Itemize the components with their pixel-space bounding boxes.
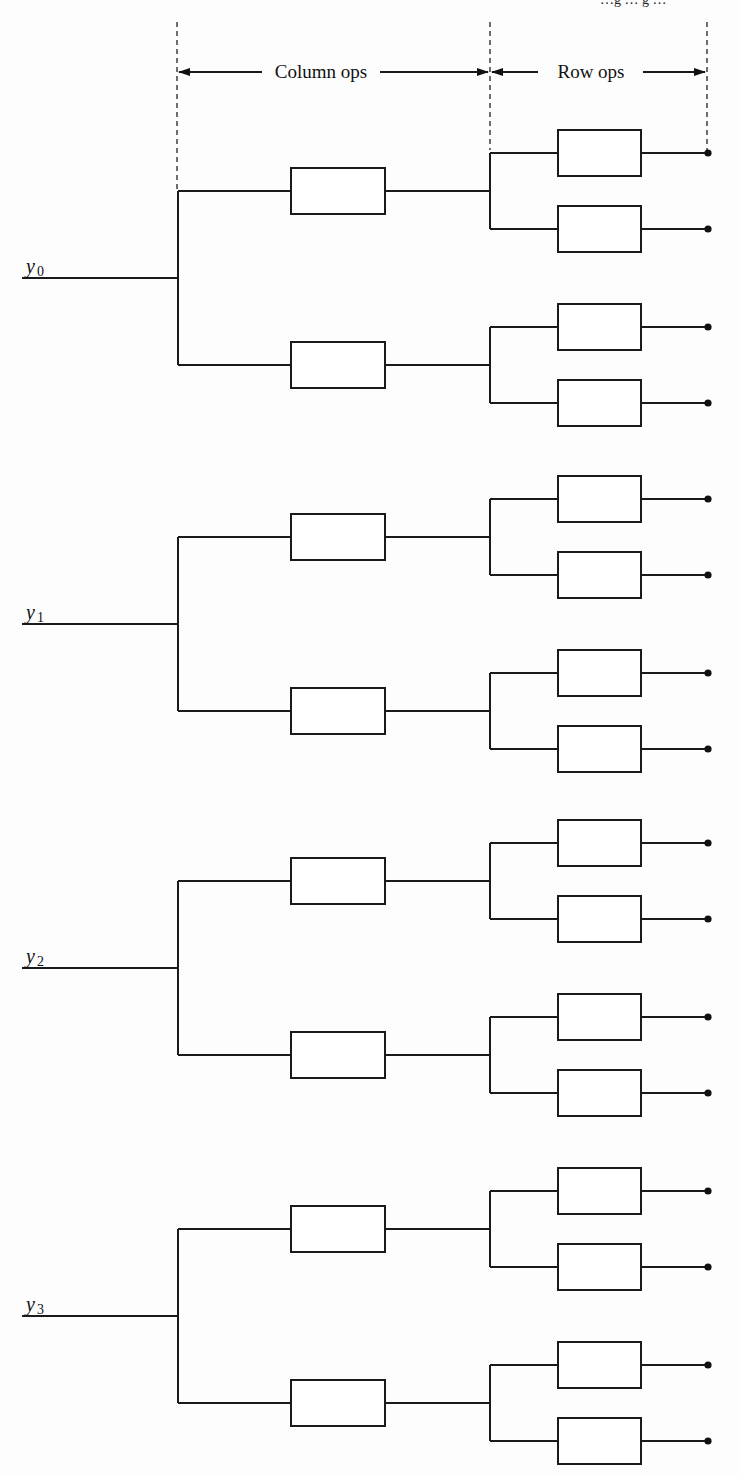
output-endpoint-dot-icon [704, 1437, 711, 1444]
column-op-box [291, 1380, 385, 1426]
output-endpoint-dot-icon [704, 571, 711, 578]
row-op-box [558, 1418, 641, 1464]
output-endpoint-dot-icon [704, 225, 711, 232]
output-endpoint-dot-icon [704, 1187, 711, 1194]
column-op-box [291, 688, 385, 734]
output-endpoint-dot-icon [704, 1263, 711, 1270]
output-endpoint-dot-icon [704, 915, 711, 922]
column-op-box [291, 342, 385, 388]
column-op-box [291, 858, 385, 904]
output-endpoint-dot-icon [704, 399, 711, 406]
row-op-box [558, 1244, 641, 1290]
row-op-box [558, 130, 641, 176]
input-label: y2 [24, 945, 44, 969]
row-op-box [558, 1070, 641, 1116]
input-label: y0 [24, 255, 44, 279]
column-op-box [291, 1032, 385, 1078]
input-block-0: y0 [22, 130, 712, 426]
output-endpoint-dot-icon [704, 1013, 711, 1020]
column-ops-label: Column ops [275, 61, 367, 82]
row-op-box [558, 1168, 641, 1214]
input-block-2: y2 [22, 820, 712, 1116]
output-endpoint-dot-icon [704, 1089, 711, 1096]
column-op-box [291, 1206, 385, 1252]
row-op-box [558, 650, 641, 696]
output-endpoint-dot-icon [704, 1361, 711, 1368]
output-endpoint-dot-icon [704, 839, 711, 846]
column-op-box [291, 168, 385, 214]
output-endpoint-dot-icon [704, 669, 711, 676]
output-endpoint-dot-icon [704, 495, 711, 502]
input-block-1: y1 [22, 476, 712, 772]
row-op-box [558, 206, 641, 252]
row-op-box [558, 896, 641, 942]
column-ops-span: Column ops [179, 61, 488, 82]
column-row-ops-tree-diagram: …g … g … Column ops Row ops y0y1y2y3 [0, 0, 739, 1475]
output-endpoint-dot-icon [704, 149, 711, 156]
row-ops-label: Row ops [557, 61, 624, 82]
output-endpoint-dot-icon [704, 745, 711, 752]
row-ops-span: Row ops [492, 61, 705, 82]
row-op-box [558, 380, 641, 426]
row-op-box [558, 994, 641, 1040]
input-label: y1 [24, 601, 44, 625]
row-op-box [558, 820, 641, 866]
row-op-box [558, 552, 641, 598]
row-op-box [558, 1342, 641, 1388]
column-op-box [291, 514, 385, 560]
row-op-box [558, 726, 641, 772]
clipped-header-text: …g … g … [600, 0, 667, 7]
input-block-3: y3 [22, 1168, 712, 1464]
row-op-box [558, 304, 641, 350]
input-label: y3 [24, 1293, 44, 1317]
row-op-box [558, 476, 641, 522]
output-endpoint-dot-icon [704, 323, 711, 330]
